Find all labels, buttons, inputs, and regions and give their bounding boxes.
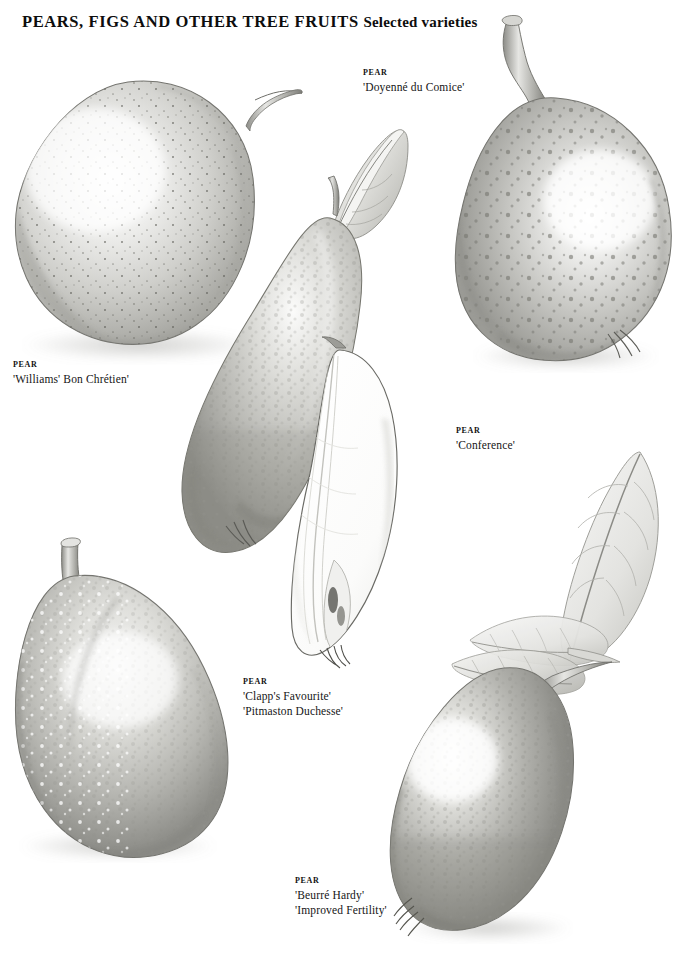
caption-doyenne-du-comice: PEAR 'Doyenné du Comice' bbox=[363, 68, 465, 95]
pear-doyenne-du-comice bbox=[445, 15, 685, 380]
caption-conference: PEAR 'Conference' bbox=[456, 426, 515, 453]
leaf-doyenne-du-comice bbox=[327, 130, 408, 242]
caption-kind: PEAR bbox=[13, 360, 129, 371]
caption-cultivar-secondary: 'Improved Fertility' bbox=[295, 903, 387, 918]
pear-williams-bon-chretien bbox=[10, 75, 302, 361]
caption-kind: PEAR bbox=[243, 677, 343, 688]
leaf-beurre-hardy-large bbox=[561, 452, 658, 663]
botanical-plate: PEARS, FIGS AND OTHER TREE FRUITS Select… bbox=[0, 0, 693, 959]
caption-kind: PEAR bbox=[363, 68, 465, 79]
caption-kind: PEAR bbox=[295, 876, 387, 887]
leaf-beurre-hardy-spur bbox=[452, 616, 620, 695]
pear-clapps-favourite bbox=[10, 538, 250, 875]
plate-artwork bbox=[0, 0, 693, 959]
caption-kind: PEAR bbox=[456, 426, 515, 437]
caption-cultivar-secondary: 'Pitmaston Duchesse' bbox=[243, 704, 343, 719]
pear-beurre-hardy bbox=[380, 660, 612, 950]
caption-cultivar: 'Williams' Bon Chrétien' bbox=[13, 372, 129, 387]
caption-cultivar: 'Conference' bbox=[456, 438, 515, 453]
caption-williams-bon-chretien: PEAR 'Williams' Bon Chrétien' bbox=[13, 360, 129, 387]
pear-conference-section bbox=[291, 337, 397, 668]
page-title: PEARS, FIGS AND OTHER TREE FRUITS Select… bbox=[22, 12, 477, 32]
plate-title-main: PEARS, FIGS AND OTHER TREE FRUITS bbox=[22, 12, 359, 31]
caption-cultivar: 'Beurré Hardy' bbox=[295, 888, 387, 903]
caption-clapps-favourite: PEAR 'Clapp's Favourite' 'Pitmaston Duch… bbox=[243, 677, 343, 719]
pear-conference-whole bbox=[175, 176, 375, 560]
caption-beurre-hardy: PEAR 'Beurré Hardy' 'Improved Fertility' bbox=[295, 876, 387, 918]
plate-title-sub: Selected varieties bbox=[363, 14, 477, 30]
caption-cultivar: 'Clapp's Favourite' bbox=[243, 689, 343, 704]
caption-cultivar: 'Doyenné du Comice' bbox=[363, 80, 465, 95]
